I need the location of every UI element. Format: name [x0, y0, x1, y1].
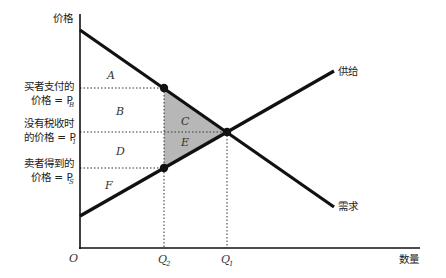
seller-price-point [160, 164, 168, 172]
q1-label: Q 1 [221, 253, 233, 268]
tax-deadweight-loss-diagram: 价格 数量 O 供给 需求 买者支付的 价格 = P B 没有税收时 的价格 =… [0, 0, 446, 278]
area-f-label: F [104, 179, 113, 192]
equilibrium-point [223, 128, 231, 136]
area-e-label: E [180, 136, 189, 149]
y-axis-label: 价格 [53, 12, 74, 24]
seller-price-subscript: S [69, 178, 74, 186]
seller-price-label-line2: 价格 = P [31, 171, 73, 183]
seller-price-label-line1: 卖者得到的 [24, 157, 74, 169]
x-axis-label: 数量 [399, 253, 420, 265]
buyer-price-point [160, 84, 168, 92]
q2-label: Q 2 [158, 253, 171, 268]
buyer-price-label: 买者支付的 价格 = P B [24, 80, 74, 109]
area-a-label: A [106, 69, 115, 82]
demand-label: 需求 [338, 200, 359, 212]
demand-curve [80, 30, 334, 207]
seller-price-label: 卖者得到的 价格 = P S [24, 157, 74, 186]
origin-label: O [69, 252, 78, 265]
area-d-label: D [115, 145, 125, 158]
buyer-price-subscript: B [68, 101, 74, 109]
buyer-price-label-line1: 买者支付的 [24, 80, 74, 92]
q1-sub: 1 [229, 260, 233, 268]
deadweight-loss-area [164, 88, 227, 168]
no-tax-price-label-line1: 没有税收时 [24, 117, 75, 129]
supply-curve [80, 71, 334, 216]
buyer-price-label-line2: 价格 = P [31, 94, 73, 106]
area-c-label: C [181, 115, 190, 128]
q2-sub: 2 [165, 260, 171, 268]
no-tax-price-subscript: 1 [72, 138, 76, 146]
no-tax-price-label: 没有税收时 的价格 = P 1 [24, 117, 76, 146]
area-b-label: B [115, 105, 124, 118]
supply-label: 供给 [338, 65, 359, 77]
no-tax-price-label-line2: 的价格 = P [24, 131, 76, 143]
